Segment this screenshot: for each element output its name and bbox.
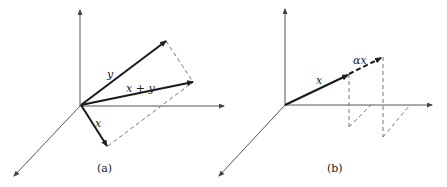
axis-diagonal [14, 106, 80, 176]
label-y: y [106, 68, 114, 81]
axis-diagonal [219, 105, 285, 176]
dashed-proj-x-diagonal [349, 105, 371, 127]
caption-a: (a) [97, 162, 112, 175]
vector-diagram: y x + y x (a) x αx (b) [0, 0, 447, 187]
panel-b: x αx (b) [219, 9, 432, 176]
label-x-plus-y: x + y [126, 82, 155, 95]
panel-a: y x + y x (a) [14, 10, 224, 176]
label-x: x [95, 117, 102, 130]
vector-x [81, 105, 107, 146]
label-x: x [316, 74, 323, 87]
dashed-proj-ax-diagonal [383, 105, 410, 137]
caption-b: (b) [327, 162, 343, 175]
label-alpha-x: αx [353, 54, 367, 67]
dashed-y-to-sum [166, 41, 193, 82]
